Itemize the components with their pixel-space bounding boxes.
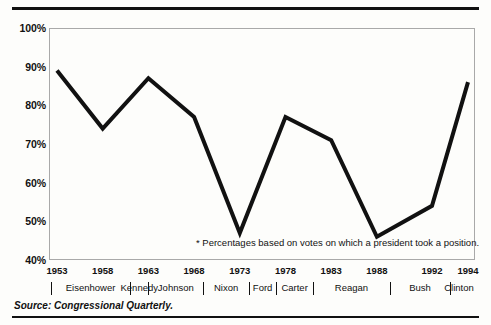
president-divider bbox=[276, 282, 277, 295]
x-axis-year-ticks: 1953195819631968197319781983198819921994 bbox=[0, 265, 491, 279]
y-tick-label: 80% bbox=[2, 99, 46, 111]
president-divider bbox=[51, 282, 52, 295]
x-tick-label: 1992 bbox=[421, 265, 442, 276]
bottom-rule bbox=[12, 316, 479, 318]
president-label: Clinton bbox=[444, 282, 474, 293]
president-label: Bush bbox=[409, 282, 431, 293]
president-divider bbox=[130, 282, 131, 295]
x-tick-label: 1978 bbox=[275, 265, 296, 276]
y-tick-label: 70% bbox=[2, 138, 46, 150]
x-tick-label: 1994 bbox=[457, 265, 478, 276]
president-divider bbox=[249, 282, 250, 295]
data-polyline bbox=[57, 71, 468, 237]
president-label: Eisenhower bbox=[66, 282, 116, 293]
president-label: Nixon bbox=[214, 282, 238, 293]
line-series bbox=[49, 28, 475, 260]
x-tick-label: 1973 bbox=[229, 265, 250, 276]
president-divider bbox=[313, 282, 314, 295]
y-tick-label: 50% bbox=[2, 215, 46, 227]
president-label: Kennedy bbox=[120, 282, 158, 293]
x-tick-label: 1958 bbox=[92, 265, 113, 276]
chart-figure: 100%90%80%70%60%50%40% 19531958196319681… bbox=[0, 0, 491, 325]
president-divider bbox=[148, 282, 149, 295]
president-label: Johnson bbox=[158, 282, 194, 293]
president-band: EisenhowerKennedyJohnsonNixonFordCarterR… bbox=[0, 282, 491, 298]
x-tick-label: 1983 bbox=[321, 265, 342, 276]
president-label: Ford bbox=[253, 282, 273, 293]
president-label: Reagan bbox=[335, 282, 368, 293]
chart-annotation: * Percentages based on votes on which a … bbox=[196, 237, 479, 248]
x-tick-label: 1968 bbox=[184, 265, 205, 276]
top-rule bbox=[12, 7, 479, 10]
y-tick-label: 60% bbox=[2, 177, 46, 189]
source-credit: Source: Congressional Quarterly. bbox=[14, 300, 173, 311]
y-tick-label: 100% bbox=[2, 22, 46, 34]
y-tick-label: 90% bbox=[2, 61, 46, 73]
x-tick-label: 1963 bbox=[138, 265, 159, 276]
president-divider bbox=[203, 282, 204, 295]
president-label: Carter bbox=[281, 282, 307, 293]
x-tick-label: 1988 bbox=[366, 265, 387, 276]
president-divider bbox=[450, 282, 451, 295]
x-tick-label: 1953 bbox=[46, 265, 67, 276]
president-divider bbox=[390, 282, 391, 295]
